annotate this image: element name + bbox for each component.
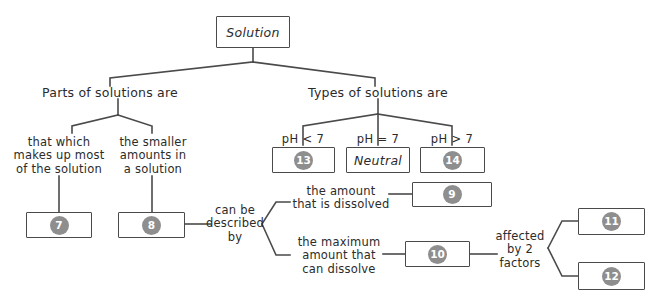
ph-greater-label-text: pH > 7 xyxy=(431,132,474,146)
answer-box-9[interactable]: 9 xyxy=(412,182,492,207)
answer-badge-13: 13 xyxy=(294,151,313,170)
factors-label-text: affected by 2 factors xyxy=(495,230,544,271)
answer-box-11[interactable]: 11 xyxy=(578,208,645,235)
factors-label: affected by 2 factors xyxy=(490,228,550,272)
wire-left-to-child-b xyxy=(118,115,152,133)
ph-less-label: pH < 7 xyxy=(272,132,334,146)
ph-equal-label-text: pH = 7 xyxy=(357,132,400,146)
answer-box-14[interactable]: 14 xyxy=(420,147,485,173)
neutral-box[interactable]: Neutral xyxy=(346,147,410,173)
wire-described-to-amount xyxy=(262,202,290,224)
wire-described-to-max xyxy=(262,224,290,255)
concept-map-canvas: Solution Parts of solutions are Types of… xyxy=(0,0,657,307)
branch-label-parts: Parts of solutions are xyxy=(35,84,185,100)
neutral-box-label: Neutral xyxy=(354,153,402,168)
connector-label-described-by: can be described by xyxy=(206,202,264,246)
answer-box-10[interactable]: 10 xyxy=(405,241,470,267)
answer-badge-14: 14 xyxy=(443,151,462,170)
ph-equal-label: pH = 7 xyxy=(347,132,409,146)
answer-box-12[interactable]: 12 xyxy=(578,262,645,290)
answer-badge-9: 9 xyxy=(443,185,462,204)
left-child-b-text: the smaller amounts in a solution xyxy=(119,136,186,177)
wire-root-to-right xyxy=(253,62,375,86)
ph-greater-label: pH > 7 xyxy=(421,132,483,146)
root-box-solution[interactable]: Solution xyxy=(216,16,290,48)
wire-factors-to-box11 xyxy=(548,221,578,248)
root-box-label: Solution xyxy=(226,25,279,40)
answer-box-7[interactable]: 7 xyxy=(26,212,92,238)
amount-dissolved-label: the amount that is dissolved xyxy=(291,183,391,213)
left-child-a-label: that which makes up most of the solution xyxy=(9,134,109,178)
answer-badge-8: 8 xyxy=(142,216,161,235)
amount-dissolved-text: the amount that is dissolved xyxy=(292,185,389,212)
branch-label-types-text: Types of solutions are xyxy=(308,85,448,100)
answer-box-13[interactable]: 13 xyxy=(272,147,335,173)
answer-badge-7: 7 xyxy=(50,216,69,235)
answer-badge-11: 11 xyxy=(602,212,621,231)
left-child-b-label: the smaller amounts in a solution xyxy=(110,134,196,178)
wire-left-to-child-a xyxy=(72,115,118,133)
ph-less-label-text: pH < 7 xyxy=(282,132,325,146)
max-amount-label: the maximum amount that can dissolve xyxy=(291,234,387,278)
answer-badge-10: 10 xyxy=(428,245,447,264)
answer-box-8[interactable]: 8 xyxy=(118,212,185,238)
max-amount-text: the maximum amount that can dissolve xyxy=(298,236,381,277)
branch-label-types: Types of solutions are xyxy=(303,84,453,100)
answer-badge-12: 12 xyxy=(602,267,621,286)
left-child-a-text: that which makes up most of the solution xyxy=(14,136,105,177)
branch-label-parts-text: Parts of solutions are xyxy=(42,85,178,100)
wire-root-to-left xyxy=(110,62,253,86)
wire-factors-to-box12 xyxy=(548,248,578,276)
connector-label-described-by-text: can be described by xyxy=(206,204,264,245)
